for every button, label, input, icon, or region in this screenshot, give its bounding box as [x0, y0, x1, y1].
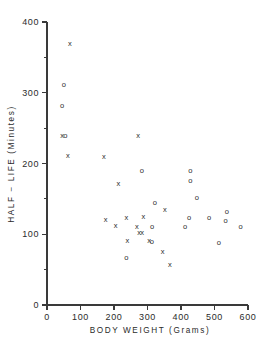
- y-tick-label: 300: [22, 88, 39, 98]
- data-point-o: o: [183, 222, 187, 231]
- y-axis-title: HALF − LIFE (Minutes): [7, 105, 16, 223]
- data-series-o-markers: oooooooooooooooooo: [60, 80, 243, 262]
- data-point-o: o: [60, 101, 64, 110]
- x-tick-label: 500: [206, 312, 223, 322]
- data-point-x: x: [125, 213, 129, 222]
- x-axis-tick-labels: 0100200300400500600: [44, 312, 256, 322]
- data-point-o: o: [239, 222, 243, 231]
- data-point-o: o: [217, 238, 221, 247]
- data-point-o: o: [223, 216, 227, 225]
- data-point-x: x: [161, 247, 165, 256]
- data-point-o: o: [207, 213, 211, 222]
- data-point-o: o: [150, 237, 154, 246]
- x-tick-label: 200: [106, 312, 123, 322]
- y-tick-label: 0: [33, 300, 39, 310]
- data-point-x: x: [66, 151, 70, 160]
- data-point-x: x: [163, 205, 167, 214]
- data-point-o: o: [187, 213, 191, 222]
- data-point-x: x: [142, 212, 146, 221]
- data-point-x: x: [102, 152, 106, 161]
- data-point-x: x: [168, 260, 172, 269]
- data-point-o: o: [150, 222, 154, 231]
- data-point-x: x: [68, 39, 72, 48]
- x-tick-label: 400: [173, 312, 190, 322]
- data-point-x: x: [140, 228, 144, 237]
- data-point-o: o: [140, 166, 144, 175]
- x-tick-label: 100: [72, 312, 89, 322]
- y-axis-ticks: [42, 22, 47, 305]
- y-tick-label: 200: [22, 159, 39, 169]
- scatter-plot-figure: 0100200300400 0100200300400500600 xxxxxx…: [0, 0, 272, 350]
- data-point-x: x: [136, 131, 140, 140]
- data-point-o: o: [63, 131, 67, 140]
- data-point-o: o: [188, 166, 192, 175]
- data-point-o: o: [124, 253, 128, 262]
- data-point-o: o: [195, 193, 199, 202]
- y-axis-tick-labels: 0100200300400: [22, 17, 39, 310]
- x-tick-label: 600: [240, 312, 257, 322]
- x-axis-title: BODY WEIGHT (Grams): [90, 326, 211, 335]
- y-tick-label: 400: [22, 17, 39, 27]
- data-series-x-markers: xxxxxxxxxxxxxxxxxx: [60, 39, 172, 269]
- data-point-o: o: [153, 198, 157, 207]
- data-point-o: o: [225, 207, 229, 216]
- x-tick-label: 0: [44, 312, 50, 322]
- data-point-x: x: [126, 236, 130, 245]
- x-axis-ticks: [47, 305, 248, 310]
- data-point-x: x: [116, 179, 120, 188]
- plot-canvas: 0100200300400 0100200300400500600 xxxxxx…: [0, 0, 272, 350]
- data-point-x: x: [104, 215, 108, 224]
- data-point-x: x: [114, 221, 118, 230]
- data-point-o: o: [188, 176, 192, 185]
- x-tick-label: 300: [139, 312, 156, 322]
- data-point-o: o: [62, 80, 66, 89]
- y-tick-label: 100: [22, 229, 39, 239]
